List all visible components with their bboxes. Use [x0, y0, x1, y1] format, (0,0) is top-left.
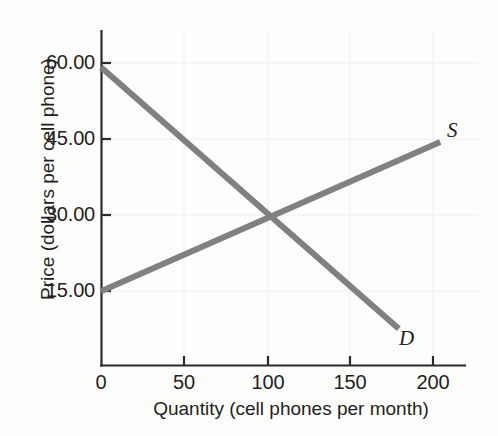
- x-tick-label-0: 0: [81, 371, 121, 394]
- x-tick-label-150: 150: [324, 371, 376, 394]
- x-tick-label-200: 200: [407, 371, 459, 394]
- supply-demand-chart-figure: 60.00 45.00 30.00 15.00 0 50 100 150 200…: [0, 0, 498, 436]
- x-tick-label-50: 50: [162, 371, 206, 394]
- gridlines-group: [101, 30, 478, 366]
- x-tick-label-100: 100: [242, 371, 294, 394]
- supply-curve-line: [101, 142, 440, 291]
- demand-curve-line: [101, 67, 399, 328]
- demand-curve-label: D: [399, 326, 414, 351]
- y-axis-title: Price (dollars per cell phone): [37, 39, 59, 319]
- supply-curve-label: S: [447, 118, 458, 143]
- x-axis-title: Quantity (cell phones per month): [101, 398, 481, 420]
